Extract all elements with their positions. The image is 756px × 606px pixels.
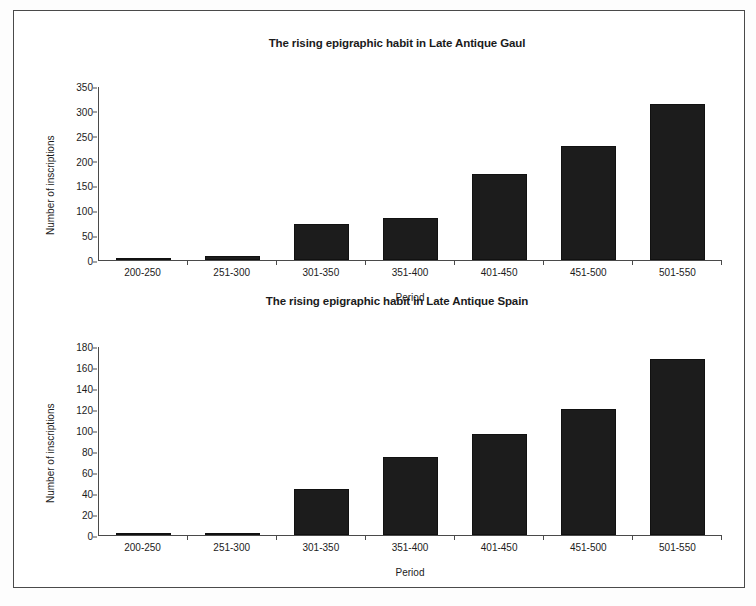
chart-spain-x-tick-label: 200-250 <box>98 542 187 553</box>
chart-gaul-x-tick-label: 251-300 <box>187 267 276 278</box>
tick-mark-icon <box>365 260 366 265</box>
tick-mark-icon <box>187 260 188 265</box>
tick-mark-icon <box>93 389 97 390</box>
tick-mark-icon <box>276 535 277 540</box>
chart-gaul-y-tick-label: 350 <box>76 82 93 93</box>
tick-mark-icon <box>93 494 97 495</box>
chart-spain-y-tick-label: 60 <box>82 468 93 479</box>
chart-gaul-y-tick-label: 300 <box>76 106 93 117</box>
chart-spain-title: The rising epigraphic habit in Late Anti… <box>14 283 746 307</box>
tick-mark-icon <box>93 211 97 212</box>
chart-gaul-bar-slot <box>99 87 188 260</box>
chart-spain-y-tick-label: 140 <box>76 384 93 395</box>
chart-spain-x-tick-label: 301-350 <box>276 542 365 553</box>
chart-gaul-y-tick-label: 150 <box>76 181 93 192</box>
chart-spain-plot-area: Number of inscriptions 02040608010012014… <box>14 307 746 542</box>
chart-spain-y-tick-label: 180 <box>76 342 93 353</box>
chart-spain-bar-200-250 <box>116 533 171 535</box>
chart-gaul: The rising epigraphic habit in Late Anti… <box>14 25 746 290</box>
chart-gaul-bar-451-500 <box>561 146 616 260</box>
chart-spain-x-tick-label: 401-450 <box>455 542 544 553</box>
tick-mark-icon <box>454 260 455 265</box>
chart-spain-bar-slot <box>366 347 455 535</box>
chart-gaul-x-axis-labels: 200-250251-300301-350351-400401-450451-5… <box>98 267 722 278</box>
tick-mark-icon <box>93 410 97 411</box>
chart-spain-y-axis-ticks: 020406080100120140160180 <box>57 347 93 536</box>
chart-spain-x-tick-label: 451-500 <box>544 542 633 553</box>
chart-spain-bar-slot <box>277 347 366 535</box>
chart-gaul-bar-slot <box>277 87 366 260</box>
chart-spain-y-axis-title: Number of inscriptions <box>45 404 56 503</box>
chart-gaul-axes <box>98 87 722 261</box>
chart-gaul-title: The rising epigraphic habit in Late Anti… <box>14 25 746 49</box>
chart-gaul-bar-351-400 <box>383 218 438 260</box>
chart-spain-bar-501-550 <box>650 359 705 535</box>
chart-spain-x-axis-labels: 200-250251-300301-350351-400401-450451-5… <box>98 542 722 553</box>
tick-mark-icon <box>93 347 97 348</box>
tick-mark-icon <box>276 260 277 265</box>
chart-spain-y-tick-label: 80 <box>82 447 93 458</box>
chart-spain-x-tick-label: 501-550 <box>633 542 722 553</box>
tick-mark-icon <box>93 186 97 187</box>
tick-mark-icon <box>721 260 722 265</box>
chart-spain-bar-251-300 <box>205 533 260 535</box>
chart-gaul-y-tick-label: 100 <box>76 206 93 217</box>
chart-gaul-bars <box>99 87 722 260</box>
chart-spain-x-axis-title: Period <box>98 567 722 578</box>
chart-spain-bar-451-500 <box>561 409 616 535</box>
tick-mark-icon <box>93 236 97 237</box>
chart-spain-bar-slot <box>455 347 544 535</box>
tick-mark-icon <box>93 368 97 369</box>
chart-spain-y-tick-label: 160 <box>76 363 93 374</box>
chart-spain-x-tick-label: 251-300 <box>187 542 276 553</box>
chart-gaul-x-tick-label: 451-500 <box>544 267 633 278</box>
chart-spain-bar-351-400 <box>383 457 438 535</box>
tick-mark-icon <box>93 431 97 432</box>
figure-frame: The rising epigraphic habit in Late Anti… <box>13 10 745 588</box>
chart-spain-bar-slot <box>99 347 188 535</box>
tick-mark-icon <box>721 535 722 540</box>
chart-spain-bar-401-450 <box>472 434 527 535</box>
tick-mark-icon <box>187 535 188 540</box>
tick-mark-icon <box>365 535 366 540</box>
chart-spain-y-tick-label: 120 <box>76 405 93 416</box>
tick-mark-icon <box>543 260 544 265</box>
chart-gaul-y-axis-title: Number of inscriptions <box>45 136 56 235</box>
chart-gaul-y-tick-label: 0 <box>87 256 93 267</box>
tick-mark-icon <box>632 535 633 540</box>
tick-mark-icon <box>93 162 97 163</box>
chart-gaul-bar-slot <box>188 87 277 260</box>
tick-mark-icon <box>632 260 633 265</box>
tick-mark-icon <box>93 112 97 113</box>
chart-spain-y-tick-label: 100 <box>76 426 93 437</box>
chart-gaul-bar-slot <box>455 87 544 260</box>
chart-gaul-x-tick-label: 351-400 <box>365 267 454 278</box>
chart-gaul-bar-slot <box>633 87 722 260</box>
chart-gaul-bar-401-450 <box>472 174 527 260</box>
chart-spain-bar-301-350 <box>294 489 349 535</box>
tick-mark-icon <box>93 261 97 262</box>
chart-spain: The rising epigraphic habit in Late Anti… <box>14 283 746 573</box>
chart-gaul-bar-slot <box>366 87 455 260</box>
chart-gaul-bar-200-250 <box>116 258 171 260</box>
chart-gaul-y-tick-label: 250 <box>76 131 93 142</box>
chart-gaul-y-tick-label: 50 <box>82 231 93 242</box>
chart-gaul-x-tick-label: 200-250 <box>98 267 187 278</box>
screenshot-page: The rising epigraphic habit in Late Anti… <box>0 0 756 606</box>
chart-spain-bar-slot <box>633 347 722 535</box>
chart-spain-y-tick-label: 40 <box>82 489 93 500</box>
tick-mark-icon <box>93 515 97 516</box>
tick-mark-icon <box>93 452 97 453</box>
tick-mark-icon <box>93 536 97 537</box>
tick-mark-icon <box>93 137 97 138</box>
chart-spain-y-tick-label: 20 <box>82 510 93 521</box>
chart-spain-y-tick-label: 0 <box>87 531 93 542</box>
chart-gaul-bar-301-350 <box>294 224 349 260</box>
chart-gaul-bar-251-300 <box>205 256 260 260</box>
tick-mark-icon <box>543 535 544 540</box>
chart-spain-bars <box>99 347 722 535</box>
chart-gaul-x-tick-label: 501-550 <box>633 267 722 278</box>
tick-mark-icon <box>93 473 97 474</box>
chart-gaul-y-axis-ticks: 050100150200250300350 <box>57 87 93 261</box>
chart-gaul-y-tick-label: 200 <box>76 156 93 167</box>
